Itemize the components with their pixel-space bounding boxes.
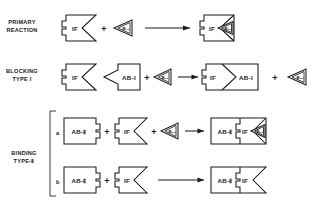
ab1-shape-blocking: AB-I xyxy=(104,64,140,90)
b12-triangle-blocking: B₁₂ xyxy=(154,69,171,85)
product-b12-label-binding-a: B₁₂ xyxy=(257,129,264,134)
b12-triangle-blocking-label: B₁₂ xyxy=(162,75,169,80)
if-shape-binding-a-label: IF xyxy=(124,128,130,135)
b12-triangle-blocking-byproduct: B₁₂ xyxy=(288,69,306,85)
reaction-arrow-binding-a xyxy=(185,129,204,134)
product-if-label-blocking: IF xyxy=(210,74,216,81)
ab2-shape-binding-a: AB-Ⅱ xyxy=(64,118,100,144)
plus-sign-binding-b-1: + xyxy=(104,176,109,186)
plus-sign-binding-a-2: + xyxy=(151,127,156,137)
product-ab1-label-blocking: AB-I xyxy=(239,74,253,81)
product-if-b12-complex: IF B₁₂ xyxy=(200,15,234,41)
if-shape-blocking-label: IF xyxy=(72,74,78,81)
product-if-label-binding-a: IF xyxy=(242,128,248,135)
b12-triangle-primary-label: B₁₂ xyxy=(123,26,130,31)
plus-sign-primary-1: + xyxy=(101,24,106,34)
plus-sign-binding-a-1: + xyxy=(104,127,109,137)
product-ab2-label-binding-b: AB-Ⅱ xyxy=(217,177,232,184)
product-if-label-primary: IF xyxy=(209,25,215,32)
row-label-blocking-line1: BLOCKING xyxy=(6,68,38,74)
row-sublabel-binding-b: b xyxy=(56,179,60,185)
if-shape-primary-label: IF xyxy=(72,25,78,32)
b12-triangle-binding-a-label: B₁₂ xyxy=(169,129,176,134)
row-binding-type-ii-a: a AB-Ⅱ + IF + B₁₂ xyxy=(56,118,266,144)
row-blocking-type-i: BLOCKING TYPE I IF AB-I + B₁₂ IF xyxy=(6,64,306,90)
reaction-arrow-binding-b xyxy=(158,178,204,183)
ab2-shape-binding-b-label: AB-Ⅱ xyxy=(71,177,86,184)
row-sublabel-binding-a: a xyxy=(56,130,60,136)
reaction-schematic-diagram: PRIMARY REACTION IF + B₁₂ IF B₁₂ xyxy=(0,0,316,212)
product-ab2-if-b12-complex: AB-Ⅱ IF B₁₂ xyxy=(211,118,266,144)
ab2-shape-binding-b: AB-Ⅱ xyxy=(64,167,100,193)
b12-triangle-primary: B₁₂ xyxy=(114,20,132,36)
plus-sign-blocking-1: + xyxy=(144,73,149,83)
if-shape-blocking: IF xyxy=(62,64,96,90)
if-shape-primary: IF xyxy=(62,15,96,41)
row-primary-reaction: PRIMARY REACTION IF + B₁₂ IF B₁₂ xyxy=(6,15,234,41)
row-label-primary-line1: PRIMARY xyxy=(8,19,35,25)
product-if-label-binding-b: IF xyxy=(242,177,248,184)
binding-type-ii-group-bracket: BINDING TYPE-Ⅱ xyxy=(11,111,56,196)
product-b12-label-primary: B₁₂ xyxy=(225,26,232,31)
group-label-binding-line2: TYPE-Ⅱ xyxy=(14,158,35,164)
reaction-arrow-primary xyxy=(145,25,190,30)
product-ab2-label-binding-a: AB-Ⅱ xyxy=(217,128,232,135)
group-label-binding-line1: BINDING xyxy=(11,150,36,156)
b12-byproduct-label-blocking: B₁₂ xyxy=(297,75,304,80)
if-shape-binding-b: IF xyxy=(115,167,147,193)
row-binding-type-ii-b: b AB-Ⅱ + IF AB-Ⅱ IF xyxy=(56,167,266,193)
row-label-primary-line2: REACTION xyxy=(6,27,37,33)
if-shape-binding-b-label: IF xyxy=(124,177,130,184)
b12-triangle-binding-a: B₁₂ xyxy=(161,123,178,139)
plus-sign-blocking-2: + xyxy=(272,73,277,83)
product-if-ab1-complex: IF AB-I xyxy=(202,64,258,90)
ab2-shape-binding-a-label: AB-Ⅱ xyxy=(71,128,86,135)
product-ab2-if-complex: AB-Ⅱ IF xyxy=(211,167,266,193)
ab1-shape-blocking-label: AB-I xyxy=(122,74,136,81)
row-label-blocking-line2: TYPE I xyxy=(12,76,31,82)
if-shape-binding-a: IF xyxy=(115,118,147,144)
reaction-arrow-blocking xyxy=(178,75,198,80)
